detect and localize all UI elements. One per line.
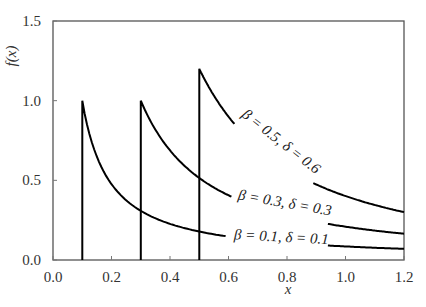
y-tick-label: 0.5 (22, 172, 41, 188)
curve-label-3: β = 0.1, δ = 0.1 (233, 226, 329, 247)
x-tick-label: 0.6 (219, 269, 238, 285)
plot-frame (53, 21, 404, 260)
y-axis-label: f(x) (3, 46, 20, 67)
y-tick-label: 1.5 (22, 13, 41, 29)
y-tick-label: 1.0 (22, 93, 41, 109)
chart: 0.00.20.40.60.81.01.2 0.00.51.01.5 β = 0… (0, 0, 426, 307)
x-axis-label: x (284, 281, 292, 297)
x-tick-label: 0.4 (161, 269, 180, 285)
curve-labels: β = 0.5, δ = 0.6β = 0.3, δ = 0.3β = 0.1,… (233, 105, 333, 247)
axis-ticks (53, 21, 404, 260)
y-tick-labels: 0.00.51.01.5 (22, 13, 41, 268)
y-tick-label: 0.0 (22, 252, 41, 268)
x-tick-label: 1.0 (336, 269, 355, 285)
x-tick-label: 0.0 (44, 269, 63, 285)
x-tick-label: 1.2 (395, 269, 414, 285)
curve-label-1: β = 0.5, δ = 0.6 (238, 105, 324, 177)
x-tick-label: 0.2 (102, 269, 121, 285)
curve-label-2: β = 0.3, δ = 0.3 (236, 186, 333, 218)
x-tick-labels: 0.00.20.40.60.81.01.2 (44, 269, 414, 285)
